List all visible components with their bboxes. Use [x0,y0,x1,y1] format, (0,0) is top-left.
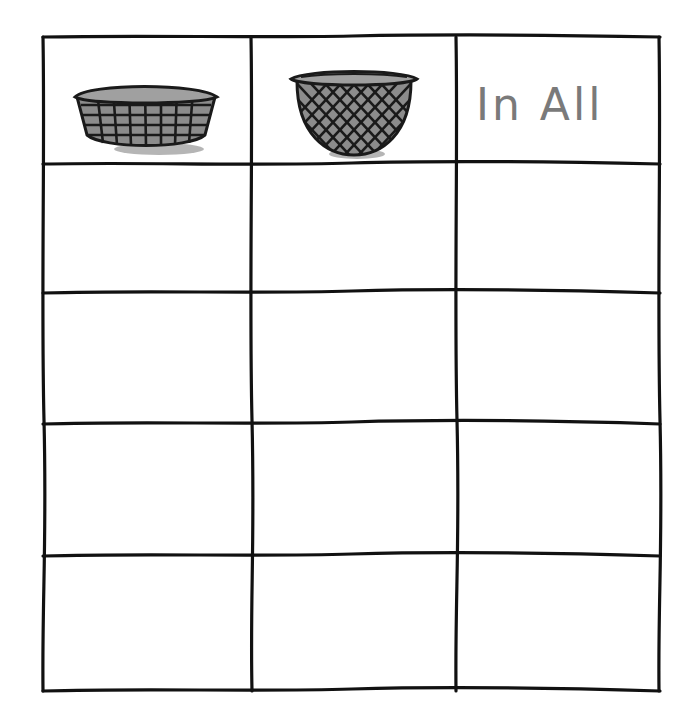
in-all-label: In All [476,83,603,127]
round-basket-icon [287,65,421,161]
worksheet-page: In All [0,0,692,716]
answer-cell-r3-c1[interactable] [43,424,251,556]
answer-cell-r2-c2[interactable] [251,293,456,424]
answer-cell-r3-c3[interactable] [456,424,659,556]
answer-cell-r4-c1[interactable] [43,556,251,691]
answer-cell-r2-c3[interactable] [456,293,659,424]
answer-cell-r2-c1[interactable] [43,293,251,424]
header-cell-oval-basket [43,37,251,164]
header-cell-round-basket [251,37,456,164]
header-cell-in-all: In All [456,37,659,164]
answer-cell-r1-c2[interactable] [251,164,456,293]
answer-cell-r4-c3[interactable] [456,556,659,691]
answer-cell-r4-c2[interactable] [251,556,456,691]
answer-cell-r1-c3[interactable] [456,164,659,293]
answer-cell-r3-c2[interactable] [251,424,456,556]
oval-basket-icon [69,79,221,159]
grid-line-v3 [659,37,661,691]
answer-cell-r1-c1[interactable] [43,164,251,293]
